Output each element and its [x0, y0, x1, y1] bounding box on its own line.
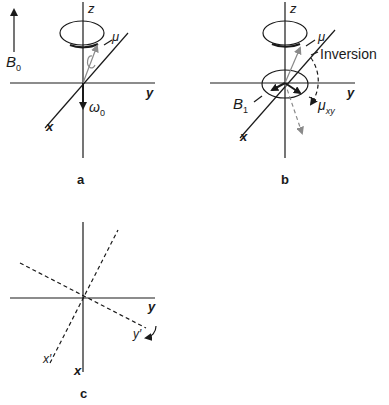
mxy-arrow	[285, 83, 300, 93]
y-label: y	[148, 300, 155, 313]
x-label: x	[46, 120, 53, 133]
mu-leader	[104, 40, 112, 45]
b0-label: B0	[6, 54, 21, 73]
precession-circle	[60, 21, 104, 45]
x-rot-label: x′	[43, 353, 51, 365]
mxy-label: μxy	[318, 98, 335, 116]
mxy-leader	[309, 97, 316, 100]
caption-c: c	[80, 387, 87, 400]
mu-vector	[83, 46, 97, 83]
panel-b	[210, 2, 355, 158]
x-label: x	[240, 130, 247, 143]
y-rot-label: y′	[133, 328, 141, 340]
y-label: y	[146, 86, 153, 99]
y-label: y	[347, 86, 354, 99]
caption-b: b	[281, 173, 289, 186]
z-label: z	[88, 2, 95, 15]
inverted-vector	[285, 83, 302, 133]
z-label: z	[290, 2, 297, 15]
omega-label: ω0	[89, 100, 105, 118]
caption-a: a	[77, 173, 84, 186]
b1-leader	[254, 96, 262, 102]
rotation-arrow	[146, 326, 156, 338]
panel-a	[10, 2, 155, 158]
mu-label: μ	[318, 30, 325, 43]
mu-leader	[306, 40, 315, 46]
x-label: x	[74, 364, 81, 377]
panel-c	[10, 222, 156, 372]
mu-label: μ	[112, 30, 119, 43]
b1-label: B1	[233, 96, 248, 115]
inversion-label: Inversion	[320, 47, 377, 61]
